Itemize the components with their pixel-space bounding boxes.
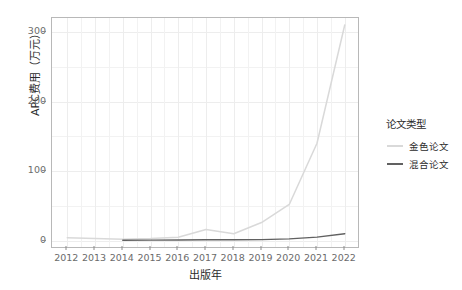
y-tick-mark	[42, 240, 46, 241]
x-tick-mark	[316, 246, 317, 250]
legend: 论文类型 金色论文 混合论文	[386, 116, 462, 174]
x-tick-mark	[149, 246, 150, 250]
x-tick-label: 2014	[110, 252, 134, 263]
x-tick-mark	[232, 246, 233, 250]
x-tick-label: 2018	[221, 252, 245, 263]
x-tick-mark	[288, 246, 289, 250]
legend-label-hybrid: 混合论文	[409, 157, 449, 171]
chart-root: APC费用（万元） 0100200300 2012201320142015201…	[0, 0, 462, 290]
plot-panel	[51, 17, 359, 248]
y-tick-mark	[42, 31, 46, 32]
x-tick-label: 2016	[165, 252, 189, 263]
y-tick-mark	[42, 101, 46, 102]
x-tick-mark	[260, 246, 261, 250]
y-tick-mark	[42, 170, 46, 171]
legend-key-hybrid-icon	[386, 157, 404, 171]
legend-item-hybrid[interactable]: 混合论文	[386, 156, 462, 172]
x-tick-label: 2020	[276, 252, 300, 263]
legend-item-gold[interactable]: 金色论文	[386, 138, 462, 154]
x-tick-label: 2017	[193, 252, 217, 263]
x-tick-label: 2019	[248, 252, 272, 263]
x-tick-mark	[343, 246, 344, 250]
x-tick-label: 2015	[137, 252, 161, 263]
series-lines	[52, 18, 359, 248]
x-tick-mark	[66, 246, 67, 250]
legend-label-gold: 金色论文	[409, 139, 449, 153]
x-axis-title: 出版年	[51, 266, 359, 282]
y-axis-ticks: 0100200300	[14, 0, 46, 290]
x-tick-mark	[121, 246, 122, 250]
x-tick-label: 2013	[82, 252, 106, 263]
legend-title: 论文类型	[386, 116, 462, 131]
x-tick-label: 2012	[54, 252, 78, 263]
x-tick-mark	[205, 246, 206, 250]
series-line-1	[123, 234, 345, 241]
x-tick-label: 2022	[332, 252, 356, 263]
x-tick-mark	[177, 246, 178, 250]
x-tick-mark	[94, 246, 95, 250]
series-line-0	[67, 25, 344, 239]
x-axis-ticks: 2012201320142015201620172018201920202021…	[51, 250, 359, 264]
legend-key-gold-icon	[386, 139, 404, 153]
x-tick-label: 2021	[304, 252, 328, 263]
